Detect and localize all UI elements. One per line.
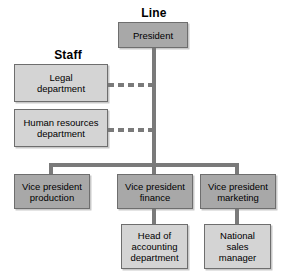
node-vice-president-production[interactable]: Vice president production (14, 174, 90, 209)
connector-vp-finance-drop (152, 163, 156, 174)
node-vice-president-marketing[interactable]: Vice president marketing (200, 174, 276, 209)
node-vp-marketing-label-1: Vice president (208, 181, 268, 192)
node-national-sales-label-2: sales (219, 241, 257, 252)
node-human-resources-label-2: department (24, 128, 99, 139)
connector-hr-dashed (108, 128, 156, 132)
org-chart: Line Staff President Legal department Hu… (0, 0, 305, 279)
connector-vp-production-drop (49, 163, 53, 174)
node-president[interactable]: President (118, 22, 188, 48)
connector-head-accounting-drop (152, 209, 156, 224)
connector-vp-branch-bar (49, 163, 239, 167)
node-legal-department[interactable]: Legal department (14, 64, 108, 102)
connector-president-trunk (152, 48, 156, 167)
connector-legal-dashed (108, 83, 156, 87)
node-head-accounting-label-2: accounting (130, 241, 178, 252)
node-vp-production-label-1: Vice president (22, 181, 82, 192)
node-vp-finance-label-1: Vice president (125, 181, 185, 192)
node-vp-finance-label-2: finance (125, 192, 185, 203)
node-legal-department-label-2: department (37, 83, 85, 94)
node-vp-production-label-2: production (22, 192, 82, 203)
connector-national-sales-drop (235, 209, 239, 224)
node-human-resources-label-1: Human resources (24, 117, 99, 128)
node-national-sales-label-1: National (219, 230, 257, 241)
line-section-label: Line (126, 6, 182, 20)
node-national-sales-label-3: manager (219, 252, 257, 263)
node-head-of-accounting-department[interactable]: Head of accounting department (121, 224, 188, 269)
node-head-accounting-label-3: department (130, 252, 178, 263)
connector-vp-marketing-drop (235, 163, 239, 174)
node-head-accounting-label-1: Head of (130, 230, 178, 241)
node-vp-marketing-label-2: marketing (208, 192, 268, 203)
node-human-resources-department[interactable]: Human resources department (14, 109, 108, 147)
node-vice-president-finance[interactable]: Vice president finance (117, 174, 193, 209)
node-national-sales-manager[interactable]: National sales manager (204, 224, 271, 269)
staff-section-label: Staff (40, 48, 96, 62)
node-legal-department-label-1: Legal (37, 72, 85, 83)
node-president-label: President (133, 30, 173, 41)
